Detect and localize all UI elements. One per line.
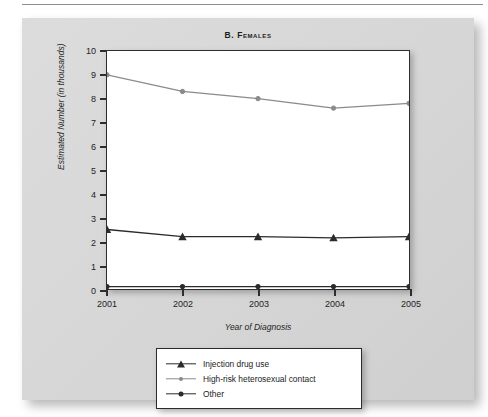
x-axis-tick xyxy=(182,289,184,296)
y-axis-tick xyxy=(100,218,107,220)
x-axis-tick-label: 2003 xyxy=(249,299,269,309)
legend-item[interactable]: Injection drug use xyxy=(166,356,352,371)
y-axis-tick-label: 2 xyxy=(91,238,96,248)
x-axis-tick-label: 2004 xyxy=(325,299,345,309)
legend-label: High-risk heterosexual contact xyxy=(203,374,316,384)
chart-legend: Injection drug useHigh-risk heterosexual… xyxy=(156,348,362,409)
y-axis-label: Estimated Number (in thousands) xyxy=(56,43,66,170)
x-axis-tick xyxy=(334,289,336,296)
chart-title: B. Females xyxy=(22,30,474,40)
series-marker-circle xyxy=(180,89,184,93)
figure-panel: B. Females Estimated Number (in thousand… xyxy=(22,18,474,400)
y-axis-tick xyxy=(100,98,107,100)
y-axis-tick xyxy=(100,122,107,124)
y-axis-tick xyxy=(100,50,107,52)
series-marker-circle xyxy=(406,284,409,289)
series-marker-circle xyxy=(256,96,260,100)
plot-series-svg xyxy=(107,51,409,289)
x-axis-tick-label: 2002 xyxy=(173,299,193,309)
series-line xyxy=(107,75,409,108)
legend-marker-triangle xyxy=(177,360,185,367)
y-axis-tick-label: 1 xyxy=(91,262,96,272)
y-axis-tick xyxy=(100,170,107,172)
figure-inner: B. Females Estimated Number (in thousand… xyxy=(22,18,474,400)
legend-label: Other xyxy=(203,389,224,399)
x-axis-tick-label: 2001 xyxy=(97,299,117,309)
legend-marker-circle xyxy=(179,377,183,381)
plot-area: 01234567891020012002200320042005 xyxy=(106,50,410,290)
top-horizontal-rule xyxy=(22,4,483,5)
series-marker-circle xyxy=(331,106,335,110)
x-axis-tick xyxy=(258,289,260,296)
legend-swatch xyxy=(166,358,196,370)
y-axis-tick xyxy=(100,74,107,76)
y-axis-tick-label: 6 xyxy=(91,142,96,152)
y-axis-tick-label: 3 xyxy=(91,214,96,224)
y-axis-tick-label: 4 xyxy=(91,190,96,200)
y-axis-tick-label: 10 xyxy=(86,46,96,56)
legend-swatch xyxy=(166,388,196,400)
legend-swatch xyxy=(166,373,196,385)
y-axis-tick-label: 9 xyxy=(91,70,96,80)
legend-label: Injection drug use xyxy=(203,359,269,369)
y-axis-tick xyxy=(100,242,107,244)
x-axis-tick xyxy=(106,289,108,296)
legend-item[interactable]: Other xyxy=(166,386,352,401)
y-axis-tick-label: 8 xyxy=(91,94,96,104)
y-axis-tick-label: 5 xyxy=(91,166,96,176)
legend-item[interactable]: High-risk heterosexual contact xyxy=(166,371,352,386)
y-axis-tick-label: 7 xyxy=(91,118,96,128)
series-marker-circle xyxy=(407,101,409,105)
legend-marker-circle xyxy=(179,391,184,396)
x-axis-label: Year of Diagnosis xyxy=(106,322,410,332)
x-axis-tick-label: 2005 xyxy=(401,299,421,309)
y-axis-tick xyxy=(100,266,107,268)
series-marker-circle xyxy=(107,73,109,77)
y-axis-tick xyxy=(100,194,107,196)
y-axis-tick xyxy=(100,146,107,148)
y-axis-tick-label: 0 xyxy=(91,286,96,296)
x-axis-tick xyxy=(410,289,412,296)
